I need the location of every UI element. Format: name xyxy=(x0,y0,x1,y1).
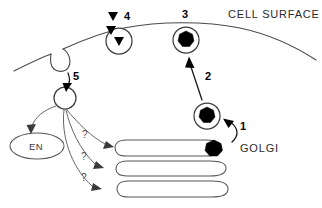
transport-vesicle-group xyxy=(194,103,220,129)
golgi-cisterna-2 xyxy=(116,161,226,176)
endosome-label: EN xyxy=(29,141,43,152)
golgi-cisterna-3 xyxy=(117,181,228,197)
endocytic-vesicle-outline xyxy=(54,87,76,109)
question-label-2: ? xyxy=(81,151,87,162)
arrow-step-2-line xyxy=(190,64,202,100)
arrow-to-endosome-group xyxy=(27,106,57,134)
arrow-to-endosome-head-icon xyxy=(27,124,37,134)
endocytic-vesicle-group xyxy=(54,87,76,109)
surface-fused-vesicle-group xyxy=(173,27,199,53)
step-2-label: 2 xyxy=(205,70,211,82)
membrane-left-segment xyxy=(14,54,51,71)
golgi-cisterna-1 xyxy=(115,140,221,156)
endosome-group: EN xyxy=(10,133,64,159)
question-label-1: ? xyxy=(82,129,88,140)
question-arrow-2-head-icon xyxy=(93,161,104,169)
cell-surface-label: CELL SURFACE xyxy=(228,8,320,20)
step-1-label: 1 xyxy=(240,120,246,132)
arrow-to-endosome-line xyxy=(32,106,56,126)
step-5-label: 5 xyxy=(73,70,79,82)
golgi-stack-group xyxy=(115,140,228,197)
step-4-label: 4 xyxy=(124,10,131,22)
arrow-step-2-head-icon xyxy=(185,57,195,69)
question-arrows-group: ? ? ? xyxy=(63,110,114,191)
question-label-3: ? xyxy=(81,172,87,183)
arrow-step-1-group xyxy=(223,119,237,143)
membrane-invagination-pit xyxy=(51,49,70,71)
arrow-step-2-group xyxy=(185,57,202,101)
question-arrow-1-head-icon xyxy=(103,141,114,149)
step-3-label: 3 xyxy=(182,8,188,20)
cell-trafficking-figure: CELL SURFACE 4 3 2 xyxy=(0,0,322,208)
question-arrow-3-head-icon xyxy=(91,183,102,191)
plasma-membrane-group xyxy=(14,23,316,72)
golgi-label: GOLGI xyxy=(240,142,279,154)
diagram-canvas: CELL SURFACE 4 3 2 xyxy=(0,0,322,208)
arrow-step-1-line xyxy=(230,122,237,142)
cargo-triangle-outer-icon xyxy=(108,12,118,21)
